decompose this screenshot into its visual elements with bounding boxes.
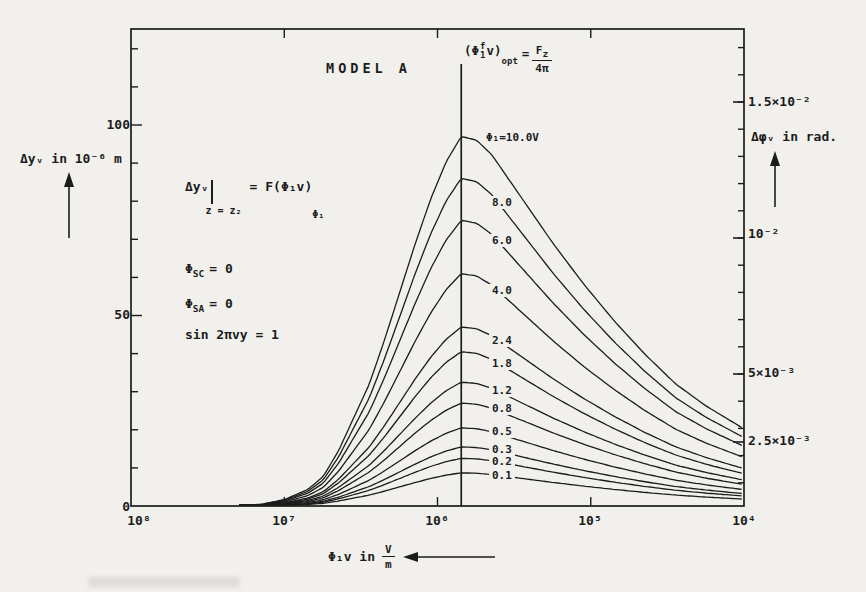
y-left-tick-100: 100 [92, 118, 130, 131]
curve-label-phi1-2.4: 2.4 [489, 334, 515, 347]
evaluated-at-bar: z = z₂ [211, 180, 247, 216]
curve-label-phi1-0.1: 0.1 [489, 469, 515, 482]
y-right-tick-15e-3: 1.5×10⁻² [748, 95, 811, 108]
sin-condition: sin 2πvy = 1 [185, 328, 279, 342]
x-tick-1e8: 10⁸ [122, 514, 156, 527]
phi-sa-base: Φ [185, 296, 193, 311]
y-right-tick-1e-2: 10⁻² [748, 227, 779, 240]
curve-label-phi1-8: 8.0 [489, 196, 515, 209]
x-tick-1e7: 10⁷ [267, 514, 301, 527]
y-right-axis-arrow-head [770, 151, 780, 166]
opt-num-sub: z [542, 48, 548, 59]
phi-sa-rest: = 0 [209, 296, 232, 311]
curve-label-phi1-6: 6.0 [489, 234, 515, 247]
definition-rhs-sub: Φ₁ [312, 209, 324, 220]
curve-label-phi1-0.2: 0.2 [489, 455, 515, 468]
evaluation-bar [211, 180, 213, 204]
opt-equals: = [522, 47, 530, 61]
opt-subscript-1: 1 [480, 51, 485, 60]
optimum-line-label: (Φ f 1 v) opt = Fz 4π [464, 44, 552, 75]
x-axis-unit-fraction: V m [382, 543, 395, 571]
y-left-tick-50: 50 [92, 308, 130, 321]
phi-sa-condition: ΦSA= 0 [185, 297, 233, 314]
phi-sc-rest: = 0 [209, 261, 232, 276]
phi-sa-sub: SA [193, 303, 204, 314]
definition-annotation: Δyᵥ z = z₂ = F(Φ₁v) Φ₁ [185, 180, 324, 216]
y-left-tick-0: 0 [92, 500, 130, 513]
y-left-axis-title: Δyᵥ in 10⁻⁶ m [20, 152, 122, 166]
x-axis-arrow-head [403, 552, 418, 562]
curve-label-phi1-4: 4.0 [489, 284, 515, 297]
opt-fraction-numerator: Fz [533, 44, 551, 60]
x-tick-1e5: 10⁵ [573, 514, 607, 527]
x-axis-unit-denominator: m [382, 556, 395, 571]
faint-caption-remnant [88, 577, 240, 587]
opt-subscript-opt: opt [502, 57, 518, 67]
phi-sc-base: Φ [185, 261, 193, 276]
x-axis-unit-numerator: V [382, 543, 395, 556]
definition-condition: z = z₂ [205, 205, 241, 216]
chart-title: MODEL A [326, 61, 411, 76]
opt-fraction-denominator: 4π [532, 60, 551, 75]
x-tick-1e4: 10⁴ [727, 514, 761, 527]
y-right-tick-25e-4: 2.5×10⁻³ [748, 434, 811, 447]
curve-label-phi1-1.2: 1.2 [489, 384, 515, 397]
definition-lhs: Δyᵥ [185, 180, 208, 194]
curve-label-phi1-0.5: 0.5 [489, 425, 515, 438]
curve-label-phi1-0.8: 0.8 [489, 402, 515, 415]
x-axis-title: Φ₁v in V m [328, 543, 395, 571]
y-left-axis-arrow-head [64, 172, 74, 187]
y-right-tick-5e-3: 5×10⁻³ [748, 366, 795, 379]
curve-label-phi1-10: Φ₁=10.0V [483, 131, 542, 144]
x-tick-1e6: 10⁶ [420, 514, 454, 527]
definition-rhs: = F(Φ₁v) [250, 180, 313, 194]
curve-label-phi1-1.8: 1.8 [489, 357, 515, 370]
opt-close: v) [486, 44, 501, 58]
opt-open: (Φ [464, 44, 479, 58]
opt-fraction: Fz 4π [532, 44, 551, 75]
phi-sc-sub: SC [193, 268, 204, 279]
phi-sc-condition: ΦSC= 0 [185, 262, 233, 279]
opt-sup-sub-stack: f 1 [480, 42, 485, 60]
x-axis-title-prefix: Φ₁v in [328, 550, 375, 564]
scanned-figure-page: MODEL A 100 50 0 Δyᵥ in 10⁻⁶ m 1.5×10⁻² … [0, 0, 866, 592]
y-right-axis-title: Δφᵥ in rad. [751, 130, 837, 144]
